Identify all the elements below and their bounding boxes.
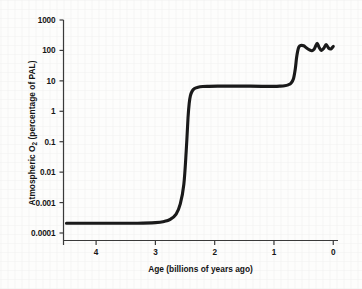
x-axis-title: Age (billions of years ago) bbox=[63, 264, 338, 274]
y-tick-label: 1000 bbox=[0, 16, 56, 25]
y-axis-title: Atmospheric O2 (percentage of PAL) bbox=[27, 38, 37, 228]
chart-figure: 10001001010.10.010.0010.0001 43210 Atmos… bbox=[0, 0, 362, 289]
y-axis-title-subscript: 2 bbox=[31, 142, 38, 146]
x-tick-label: 0 bbox=[331, 248, 335, 257]
y-axis-title-prefix: Atmospheric O bbox=[27, 145, 37, 205]
x-tick-label: 4 bbox=[94, 248, 98, 257]
x-tick-label: 2 bbox=[212, 248, 216, 257]
y-tick-label: 0.0001 bbox=[0, 229, 56, 238]
x-tick-label: 3 bbox=[153, 248, 157, 257]
oxygen-curve bbox=[66, 43, 333, 223]
x-tick-label: 1 bbox=[272, 248, 276, 257]
x-tick-marks bbox=[64, 241, 334, 246]
y-axis-title-suffix: (percentage of PAL) bbox=[27, 61, 37, 142]
